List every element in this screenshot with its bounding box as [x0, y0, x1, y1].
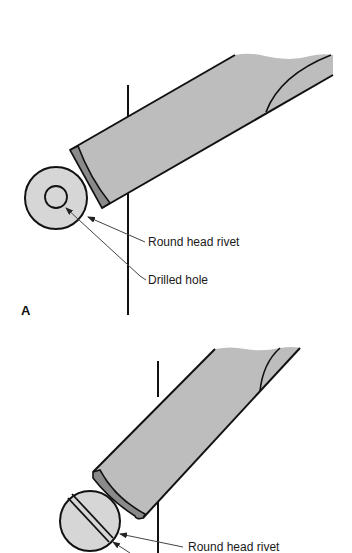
chisel-body-b	[93, 347, 300, 518]
leader-rivet-a	[88, 217, 145, 242]
label-drilled-hole-a: Drilled hole	[148, 273, 208, 287]
drilled-hole	[45, 186, 67, 208]
label-round-head-rivet-a: Round head rivet	[148, 235, 239, 249]
leader-hole-a	[66, 208, 146, 280]
leader-slot-b	[113, 542, 130, 553]
panel-letter-a: A	[21, 303, 30, 318]
leader-rivet-b	[120, 534, 183, 547]
chisel-body	[70, 54, 333, 208]
panel-b	[60, 347, 300, 553]
label-round-head-rivet-b: Round head rivet	[188, 540, 279, 553]
